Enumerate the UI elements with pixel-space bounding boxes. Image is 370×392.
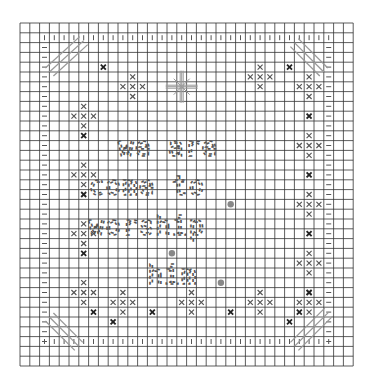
french-knot-icon bbox=[169, 250, 175, 256]
french-knot-icon bbox=[218, 280, 224, 286]
cross-stitch-chart: we arecome toworshiphim bbox=[0, 0, 370, 392]
pattern-text: worship bbox=[89, 211, 206, 241]
pattern-text: we are bbox=[118, 132, 218, 162]
pattern-text: him bbox=[147, 260, 197, 290]
pattern-text: come to bbox=[89, 171, 206, 201]
french-knot-icon bbox=[228, 201, 234, 207]
